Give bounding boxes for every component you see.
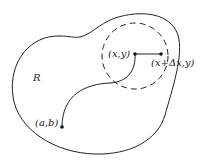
point-x-plus-dx-y — [159, 52, 163, 56]
label-x-plus-dx-y: (x+Δx,y) — [151, 57, 195, 68]
diagram-canvas: R (a,b) (x,y) (x+Δx,y) — [0, 0, 216, 165]
label-x-y: (x,y) — [108, 48, 130, 59]
point-x-y — [133, 52, 137, 56]
label-a-b: (a,b) — [35, 117, 58, 128]
region-boundary — [12, 14, 179, 154]
region-label: R — [32, 72, 41, 83]
path-curve — [62, 54, 135, 127]
point-a-b — [60, 125, 64, 129]
